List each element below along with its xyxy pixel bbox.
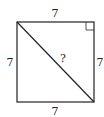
right-angle-marker [86,22,94,30]
right-side-label: 7 [97,56,104,69]
diagonal-label: ? [60,52,66,65]
square-diagonal-diagram: 7 7 7 7 ? [0,0,104,117]
diagonal-line [17,22,94,102]
left-side-label: 7 [7,56,14,69]
bottom-side-label: 7 [52,105,59,117]
top-side-label: 7 [52,7,59,20]
